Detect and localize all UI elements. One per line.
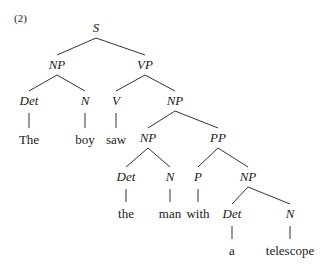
tree-node-n2: N	[166, 170, 175, 184]
tree-edge	[148, 111, 175, 128]
tree-edge	[248, 187, 290, 204]
tree-node-p: P	[194, 170, 202, 184]
tree-leaf-word: with	[186, 207, 209, 221]
tree-node-det2: Det	[117, 170, 136, 184]
tree-edge	[96, 38, 145, 55]
tree-leaf-word: man	[159, 207, 181, 221]
tree-edge	[198, 148, 218, 167]
tree-node-det3: Det	[223, 207, 242, 221]
tree-leaf-word: telescope	[266, 244, 314, 258]
tree-leaf-word: The	[19, 133, 39, 147]
tree-node-np4: NP	[240, 170, 257, 184]
tree-node-pp: PP	[210, 131, 226, 145]
tree-node-det1: Det	[20, 94, 39, 108]
tree-edge	[232, 187, 248, 204]
tree-edge	[116, 75, 145, 91]
tree-edge	[126, 148, 148, 167]
tree-node-v: V	[112, 94, 120, 108]
tree-node-np2: NP	[167, 94, 184, 108]
tree-leaf-word: saw	[106, 133, 126, 147]
tree-leaf-word: boy	[75, 133, 95, 147]
tree-leaf-word: a	[229, 244, 235, 258]
tree-node-n1: N	[81, 94, 90, 108]
tree-node-s: S	[93, 21, 100, 35]
tree-node-np3: NP	[140, 131, 157, 145]
tree-edges	[0, 0, 331, 273]
tree-node-n3: N	[286, 207, 295, 221]
tree-edge	[29, 75, 57, 91]
tree-edge	[218, 148, 248, 167]
tree-edge	[175, 111, 218, 128]
tree-edge	[145, 75, 175, 91]
tree-edge	[57, 38, 96, 55]
tree-edge	[57, 75, 85, 91]
tree-edge	[148, 148, 170, 167]
tree-node-np1: NP	[49, 58, 66, 72]
tree-node-vp: VP	[137, 58, 153, 72]
tree-leaf-word: the	[118, 207, 134, 221]
